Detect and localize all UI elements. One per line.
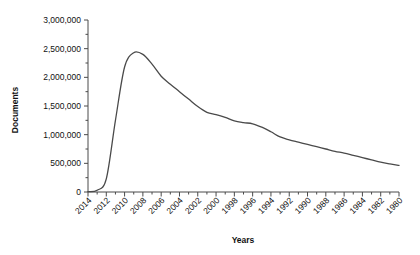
x-axis-title-text: Years (232, 235, 255, 245)
x-tick-label: 1990 (292, 195, 313, 216)
y-tick-label: 1,000,000 (43, 130, 81, 140)
x-tick-label: 2012 (91, 195, 112, 216)
x-tick-label: 1986 (329, 195, 350, 216)
x-tick-label: 1994 (256, 195, 277, 216)
chart-canvas: Documents 0500,0001,000,0001,500,0002,00… (0, 0, 420, 255)
x-tick-label: 1980 (384, 195, 405, 216)
x-tick-label: 2010 (110, 195, 131, 216)
x-tick-label: 2006 (146, 195, 167, 216)
series-line-documents (88, 52, 399, 192)
x-tick-label: 2014 (73, 195, 94, 216)
y-tick-label: 0 (76, 187, 81, 197)
x-tick-label: 1982 (366, 195, 387, 216)
x-tick-label: 1996 (238, 195, 259, 216)
y-tick-label: 1,500,000 (43, 101, 81, 111)
x-tick-label: 2002 (183, 195, 204, 216)
x-tick-label: 2000 (201, 195, 222, 216)
x-tick-label: 1992 (274, 195, 295, 216)
x-tick-label: 1984 (347, 195, 368, 216)
y-axis-title-text: Documents (10, 87, 20, 134)
y-tick-label: 500,000 (50, 158, 81, 168)
y-tick-label: 2,500,000 (43, 44, 81, 54)
y-tick-label: 3,000,000 (43, 15, 81, 25)
x-tick-label: 2004 (164, 195, 185, 216)
y-axis-title: Documents (10, 87, 20, 134)
x-axis-ticks: 2014201220102008200620042002200019981996… (73, 192, 405, 216)
x-tick-label: 2008 (128, 195, 149, 216)
y-tick-label: 2,000,000 (43, 72, 81, 82)
x-tick-label: 1998 (219, 195, 240, 216)
x-tick-label: 1988 (311, 195, 332, 216)
y-axis-ticks: 0500,0001,000,0001,500,0002,000,0002,500… (43, 15, 88, 197)
documents-by-year-chart: Documents 0500,0001,000,0001,500,0002,00… (0, 0, 420, 255)
